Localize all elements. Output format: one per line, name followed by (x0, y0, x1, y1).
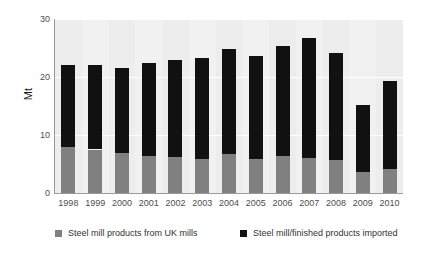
bar-segment-imported (276, 46, 290, 156)
bar-group (88, 19, 102, 193)
x-axis-tick-label: 2004 (216, 198, 243, 209)
bar-segment-uk-mills (356, 172, 370, 193)
bar-segment-imported (356, 105, 370, 172)
bar-segment-uk-mills (61, 147, 75, 193)
y-axis-tick-labels: 0102030 (22, 0, 50, 255)
x-axis-tick-label: 2002 (162, 198, 189, 209)
bar-group (249, 19, 263, 193)
x-axis-tick-label: 2000 (109, 198, 136, 209)
bar-segment-imported (88, 65, 102, 149)
stacked-bar-chart: Mt 0102030 19981999200020012002200320042… (0, 0, 443, 255)
x-axis-tick-labels: 1998199920002001200220032004200520062007… (55, 198, 403, 212)
plot-area (55, 19, 403, 193)
bar-group (61, 19, 75, 193)
x-axis-tick-label: 1999 (82, 198, 109, 209)
x-axis-tick-label: 2003 (189, 198, 216, 209)
bar-segment-uk-mills (302, 158, 316, 193)
y-axis-tick-label: 0 (24, 189, 50, 198)
bar-segment-uk-mills (195, 159, 209, 193)
legend-entry[interactable]: Steel mill/finished products imported (240, 228, 398, 239)
legend-label: Steel mill products from UK mills (68, 228, 198, 239)
legend-swatch-icon (240, 230, 247, 237)
bar-group (302, 19, 316, 193)
bar-group (142, 19, 156, 193)
bar-segment-imported (249, 56, 263, 159)
bar-group (222, 19, 236, 193)
y-axis-tick-label: 10 (24, 131, 50, 140)
bar-segment-imported (142, 63, 156, 156)
bar-group (356, 19, 370, 193)
bar-group (115, 19, 129, 193)
bar-group (383, 19, 397, 193)
bar-segment-uk-mills (142, 156, 156, 193)
x-axis-tick-label: 2010 (376, 198, 403, 209)
bar-group (276, 19, 290, 193)
x-axis-tick-label: 2006 (269, 198, 296, 209)
bar-segment-imported (168, 60, 182, 157)
bar-group (329, 19, 343, 193)
bar-segment-imported (383, 81, 397, 169)
bar-group (168, 19, 182, 193)
bar-segment-uk-mills (222, 154, 236, 193)
x-axis-tick-label: 2001 (135, 198, 162, 209)
bar-segment-imported (302, 38, 316, 157)
bar-segment-uk-mills (383, 169, 397, 193)
chart-legend: Steel mill products from UK millsSteel m… (55, 228, 435, 244)
bar-segment-imported (222, 49, 236, 154)
bar-segment-uk-mills (115, 153, 129, 193)
bar-segment-uk-mills (168, 157, 182, 193)
bar-group (195, 19, 209, 193)
bar-segment-imported (329, 53, 343, 160)
x-axis-tick-label: 1998 (55, 198, 82, 209)
x-axis-tick-label: 2007 (296, 198, 323, 209)
x-axis-tick-label: 2005 (242, 198, 269, 209)
x-axis-tick-label: 2009 (349, 198, 376, 209)
legend-label: Steel mill/finished products imported (253, 228, 398, 239)
bar-segment-uk-mills (329, 160, 343, 193)
bar-segment-uk-mills (249, 159, 263, 193)
bar-segment-imported (115, 68, 129, 153)
bar-segment-imported (195, 58, 209, 160)
bar-segment-uk-mills (88, 150, 102, 194)
x-axis-line (54, 193, 403, 194)
y-axis-tick-label: 30 (24, 15, 50, 24)
x-axis-tick-label: 2008 (323, 198, 350, 209)
bar-segment-uk-mills (276, 156, 290, 193)
legend-entry[interactable]: Steel mill products from UK mills (55, 228, 198, 239)
legend-swatch-icon (55, 230, 62, 237)
bar-segment-imported (61, 65, 75, 146)
y-axis-tick-label: 20 (24, 73, 50, 82)
